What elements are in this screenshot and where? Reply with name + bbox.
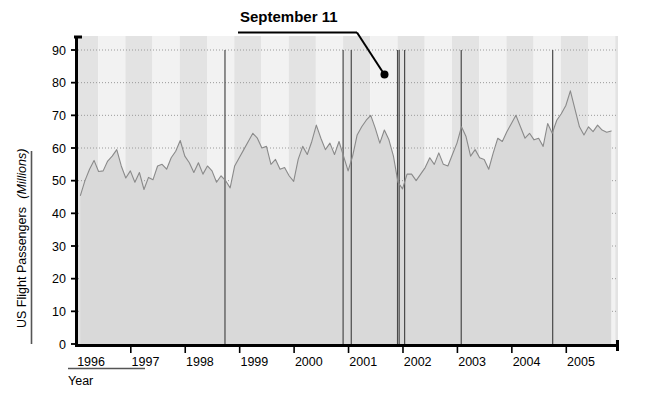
y-axis-title-main: US Flight Passengers [15,207,29,328]
flight-passengers-chart: 0102030405060708090 19961997199819992000… [0,0,649,404]
x-tick-label: 1999 [240,355,268,369]
x-tick-label: 1998 [186,355,214,369]
x-tick-label: 2002 [404,355,432,369]
x-tick-label: 2005 [567,355,595,369]
x-axis-title: Year [68,374,93,388]
y-tick-label: 30 [52,240,66,254]
annotation-marker-dot [381,71,389,79]
y-tick-label: 40 [52,207,66,221]
y-axis-title: US Flight Passengers (Millions) [15,149,29,328]
x-tick-label: 2001 [349,355,377,369]
y-tick-label: 50 [52,174,66,188]
y-tick-label: 10 [52,305,66,319]
chart-canvas: 0102030405060708090 19961997199819992000… [0,0,649,404]
x-tick-label: 2003 [458,355,486,369]
y-tick-label: 20 [52,272,66,286]
x-tick-label: 1996 [77,355,105,369]
x-tick-label: 2004 [513,355,541,369]
y-axis-title-unit: (Millions) [15,149,29,199]
x-tick-label: 1997 [132,355,160,369]
y-tick-label: 0 [59,338,66,352]
x-tick-label: 2000 [295,355,323,369]
y-tick-label: 60 [52,142,66,156]
y-tick-label: 90 [52,44,66,58]
y-tick-label: 80 [52,76,66,90]
annotation-label: September 11 [240,8,338,25]
y-tick-label: 70 [52,109,66,123]
